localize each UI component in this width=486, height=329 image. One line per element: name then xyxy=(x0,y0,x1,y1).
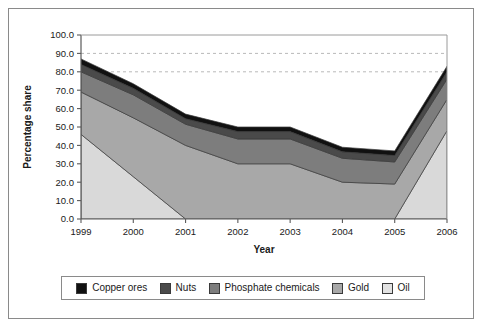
y-tick-label: 10.0 xyxy=(56,195,75,206)
x-tick-label: 2002 xyxy=(227,226,248,237)
x-tick-label: 2004 xyxy=(332,226,353,237)
legend-swatch-icon xyxy=(76,283,87,294)
y-axis-ticks: 0.010.020.030.040.050.060.070.080.090.01… xyxy=(50,29,81,224)
legend-item-oil: Oil xyxy=(382,283,410,294)
gridlines xyxy=(81,53,447,71)
y-tick-label: 80.0 xyxy=(56,66,75,77)
x-tick-label: 2000 xyxy=(123,226,144,237)
legend-swatch-icon xyxy=(209,283,220,294)
legend-item-copper-ores: Copper ores xyxy=(76,283,147,294)
y-tick-label: 70.0 xyxy=(56,85,75,96)
x-tick-label: 2005 xyxy=(384,226,405,237)
y-tick-label: 40.0 xyxy=(56,140,75,151)
legend-swatch-icon xyxy=(332,283,343,294)
legend-item-phosphate-chemicals: Phosphate chemicals xyxy=(209,283,320,294)
x-tick-label: 2006 xyxy=(436,226,457,237)
y-tick-label: 90.0 xyxy=(56,48,75,59)
y-tick-label: 0.0 xyxy=(61,213,74,224)
x-axis-title: Year xyxy=(253,244,274,255)
y-tick-label: 100.0 xyxy=(50,29,74,40)
legend-item-gold: Gold xyxy=(332,283,369,294)
legend-swatch-icon xyxy=(382,283,393,294)
chart-legend: Copper oresNutsPhosphate chemicalsGoldOi… xyxy=(61,276,425,300)
legend-label: Nuts xyxy=(176,283,197,293)
legend-item-nuts: Nuts xyxy=(160,283,197,294)
y-tick-label: 20.0 xyxy=(56,177,75,188)
x-tick-label: 2003 xyxy=(280,226,301,237)
stacked-series-group xyxy=(81,59,447,219)
legend-swatch-icon xyxy=(160,283,171,294)
y-tick-label: 60.0 xyxy=(56,103,75,114)
legend-label: Copper ores xyxy=(92,283,147,293)
legend-label: Gold xyxy=(348,283,369,293)
legend-label: Oil xyxy=(398,283,410,293)
legend-label: Phosphate chemicals xyxy=(225,283,320,293)
x-axis-ticks: 19992000200120022003200420052006 xyxy=(70,219,457,237)
x-tick-label: 2001 xyxy=(175,226,196,237)
y-axis-title: Percentage share xyxy=(22,85,33,169)
y-tick-label: 50.0 xyxy=(56,121,75,132)
chart-page: 0.010.020.030.040.050.060.070.080.090.01… xyxy=(0,0,486,329)
y-tick-label: 30.0 xyxy=(56,158,75,169)
x-tick-label: 1999 xyxy=(70,226,91,237)
